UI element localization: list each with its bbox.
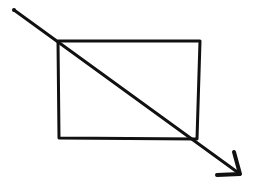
diagram-canvas [0,0,254,186]
arrow-shaft [14,10,240,174]
arrow-start-point [12,8,16,12]
